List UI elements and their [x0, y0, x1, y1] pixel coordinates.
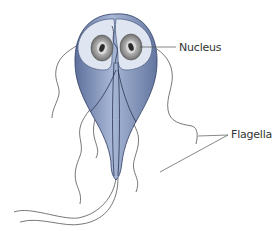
nucleus-left: [91, 35, 113, 61]
flagella-leader-upper: [198, 135, 228, 136]
flagella-label: Flagella: [231, 128, 272, 141]
giardia-diagram: [0, 0, 277, 231]
flagella-leader-lower: [160, 135, 228, 172]
nucleus-right: [120, 34, 142, 60]
nucleus-label: Nucleus: [179, 41, 221, 54]
